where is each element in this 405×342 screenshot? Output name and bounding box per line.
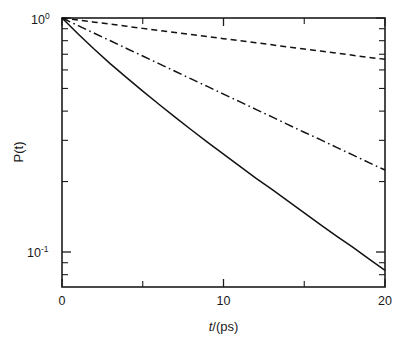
chart-background [0, 0, 405, 342]
figure-container: 100 10-1 0 10 20 t/(ps) P(t) [0, 0, 405, 342]
x-tick-label-0: 0 [59, 294, 66, 308]
y-axis-title: P(t) [11, 142, 26, 163]
x-tick-label-20: 20 [378, 294, 392, 308]
decay-plot-chart: 100 10-1 0 10 20 t/(ps) P(t) [0, 0, 405, 342]
x-axis-title: t/(ps) [209, 319, 239, 334]
x-tick-label-10: 10 [217, 294, 231, 308]
